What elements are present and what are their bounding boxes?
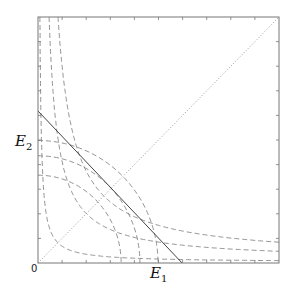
x-label-sub: 1	[161, 273, 167, 284]
curves-layer	[38, 17, 279, 263]
solid-budget-line	[38, 111, 182, 263]
y-label-sub: 2	[26, 141, 32, 152]
origin-label: 0	[31, 263, 37, 274]
y-label-base: E	[15, 132, 26, 150]
dashed-arc-2	[38, 156, 140, 263]
phase-diagram	[0, 0, 294, 296]
x-label-base: E	[150, 264, 161, 282]
x-axis-label: E1	[150, 266, 167, 284]
y-axis-label: E2	[15, 134, 32, 152]
